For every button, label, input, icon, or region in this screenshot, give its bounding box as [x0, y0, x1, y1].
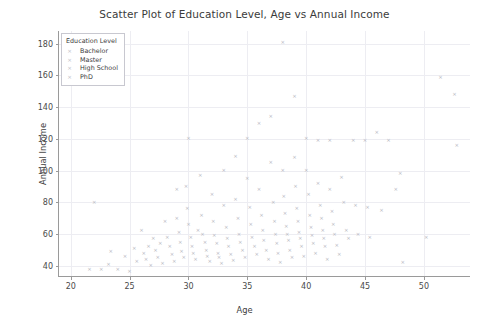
- data-point: ×: [204, 248, 209, 253]
- data-point: ×: [155, 255, 160, 260]
- data-point: ×: [321, 236, 326, 241]
- x-tick-label: 35: [242, 282, 252, 291]
- data-point: ×: [212, 233, 217, 238]
- x-tick: [306, 277, 307, 280]
- grid-line-vertical: [365, 31, 366, 276]
- data-point: ×: [283, 211, 288, 216]
- legend-entries: ×Bachelor×Master×High School×PhD: [66, 47, 118, 81]
- data-point: ×: [219, 261, 224, 266]
- data-point: ×: [172, 259, 177, 264]
- data-point: ×: [225, 236, 230, 241]
- x-tick: [71, 277, 72, 280]
- data-point: ×: [346, 236, 351, 241]
- y-tick: [56, 202, 59, 203]
- y-tick-label: 120: [38, 134, 53, 143]
- data-point: ×: [353, 203, 358, 208]
- legend-item[interactable]: ×Master: [66, 56, 118, 65]
- data-point: ×: [367, 235, 372, 240]
- data-point: ×: [221, 168, 226, 173]
- data-point: ×: [298, 236, 303, 241]
- data-point: ×: [294, 206, 299, 211]
- data-point: ×: [238, 240, 243, 245]
- y-tick-label: 180: [38, 39, 53, 48]
- data-point: ×: [292, 155, 297, 160]
- data-point: ×: [181, 255, 186, 260]
- data-point: ×: [257, 187, 262, 192]
- data-point: ×: [315, 138, 320, 143]
- data-point: ×: [167, 244, 172, 249]
- legend[interactable]: Education Level ×Bachelor×Master×High Sc…: [61, 33, 125, 86]
- data-point: ×: [188, 235, 193, 240]
- data-point: ×: [272, 219, 277, 224]
- y-tick-label: 140: [38, 103, 53, 112]
- data-point: ×: [307, 213, 312, 218]
- data-point: ×: [320, 228, 325, 233]
- data-point: ×: [304, 168, 309, 173]
- data-point: ×: [158, 241, 163, 246]
- data-point: ×: [334, 243, 339, 248]
- grid-line-horizontal: [59, 139, 470, 140]
- data-point: ×: [202, 240, 207, 245]
- legend-item[interactable]: ×PhD: [66, 73, 118, 82]
- legend-title: Education Level: [66, 37, 118, 45]
- grid-line-vertical: [130, 31, 131, 276]
- data-point: ×: [177, 230, 182, 235]
- data-point: ×: [295, 219, 300, 224]
- data-point: ×: [306, 192, 311, 197]
- data-point: ×: [139, 228, 144, 233]
- data-point: ×: [293, 184, 298, 189]
- data-point: ×: [286, 238, 291, 243]
- grid-line-horizontal: [59, 202, 470, 203]
- data-point: ×: [190, 244, 195, 249]
- data-point: ×: [287, 248, 292, 253]
- y-tick-label: 160: [38, 71, 53, 80]
- data-point: ×: [237, 232, 242, 237]
- data-point: ×: [162, 219, 167, 224]
- data-point: ×: [184, 184, 189, 189]
- legend-item-label: Bachelor: [80, 47, 108, 55]
- data-point: ×: [400, 260, 405, 265]
- x-tick-label: 50: [419, 282, 429, 291]
- x-tick-label: 25: [125, 282, 135, 291]
- grid-line-horizontal: [59, 234, 470, 235]
- legend-marker-icon: ×: [66, 74, 73, 80]
- y-tick: [56, 171, 59, 172]
- data-point: ×: [280, 40, 285, 45]
- data-point: ×: [313, 251, 318, 256]
- x-tick: [424, 277, 425, 280]
- data-point: ×: [393, 187, 398, 192]
- legend-item[interactable]: ×High School: [66, 64, 118, 73]
- data-point: ×: [337, 252, 342, 257]
- data-point: ×: [344, 228, 349, 233]
- data-point: ×: [308, 225, 313, 230]
- data-point: ×: [148, 263, 153, 268]
- data-point: ×: [332, 232, 337, 237]
- data-point: ×: [186, 136, 191, 141]
- data-point: ×: [323, 244, 328, 249]
- data-point: ×: [99, 267, 104, 272]
- data-point: ×: [233, 197, 238, 202]
- data-point: ×: [108, 249, 113, 254]
- data-point: ×: [275, 251, 280, 256]
- data-point: ×: [311, 241, 316, 246]
- data-point: ×: [278, 260, 283, 265]
- y-tick: [56, 75, 59, 76]
- data-point: ×: [199, 213, 204, 218]
- data-point: ×: [122, 254, 127, 259]
- data-point: ×: [134, 259, 139, 264]
- data-point: ×: [259, 213, 264, 218]
- data-point: ×: [301, 254, 306, 259]
- data-point: ×: [274, 241, 279, 246]
- legend-marker-icon: ×: [66, 57, 73, 63]
- data-point: ×: [144, 257, 149, 262]
- data-point: ×: [211, 219, 216, 224]
- data-point: ×: [327, 187, 332, 192]
- x-tick-label: 20: [66, 282, 76, 291]
- data-point: ×: [351, 138, 356, 143]
- data-point: ×: [233, 154, 238, 159]
- data-point: ×: [297, 230, 302, 235]
- data-point: ×: [264, 248, 269, 253]
- data-point: ×: [165, 235, 170, 240]
- legend-item[interactable]: ×Bachelor: [66, 47, 118, 56]
- data-point: ×: [252, 244, 257, 249]
